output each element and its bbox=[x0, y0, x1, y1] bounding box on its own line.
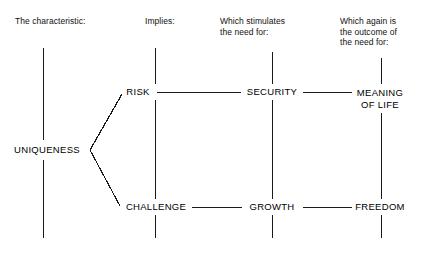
node-freedom: FREEDOM bbox=[352, 201, 408, 213]
column-header-outcome: Which again is the outcome of the need f… bbox=[340, 16, 422, 48]
node-meaning-of-life: MEANING OF LIFE bbox=[354, 87, 406, 111]
column-header-characteristic: The characteristic: bbox=[15, 16, 135, 27]
node-risk: RISK bbox=[123, 86, 152, 98]
node-security: SECURITY bbox=[244, 86, 300, 98]
node-challenge: CHALLENGE bbox=[123, 201, 189, 213]
node-uniqueness: UNIQUENESS bbox=[11, 144, 83, 156]
connector-uniqueness-to-challenge bbox=[90, 150, 120, 206]
node-growth: GROWTH bbox=[246, 201, 297, 213]
connector-uniqueness-to-risk bbox=[90, 94, 122, 150]
column-header-stimulates: Which stimulates the need for: bbox=[220, 16, 330, 37]
column-header-implies: Implies: bbox=[145, 16, 215, 27]
diagram-canvas: The characteristic: Implies: Which stimu… bbox=[0, 0, 422, 256]
